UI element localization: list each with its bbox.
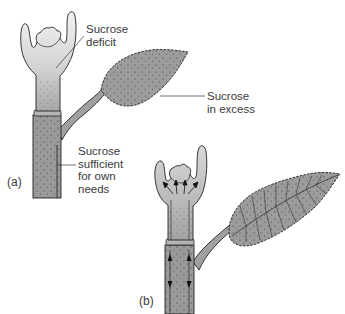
label-stem-sufficient: Sucrose sufficient for own needs	[78, 145, 123, 195]
panel-b-plant	[155, 146, 340, 314]
label-leaf-excess: Sucrose in excess	[207, 90, 255, 115]
label-stem-line1: Sucrose	[78, 145, 123, 158]
label-apex-line1: Sucrose	[86, 23, 128, 36]
panel-label-a: (a)	[7, 175, 22, 189]
panel-label-b: (b)	[139, 294, 154, 308]
label-apex-deficit: Sucrose deficit	[86, 23, 128, 48]
label-leaf-line1: Sucrose	[207, 90, 255, 103]
label-stem-line2: sufficient	[78, 158, 123, 171]
label-apex-line2: deficit	[86, 36, 128, 49]
label-stem-line3: for own	[78, 170, 123, 183]
petiole-a	[58, 88, 107, 140]
diagram-canvas	[0, 0, 345, 314]
label-stem-line4: needs	[78, 183, 123, 196]
label-leaf-line2: in excess	[207, 103, 255, 116]
